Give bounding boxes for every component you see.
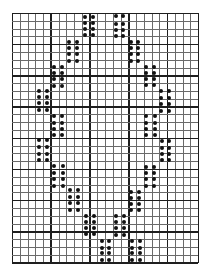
stitch-dot [144, 77, 148, 81]
stitch-dot [45, 158, 49, 162]
grid-line [12, 29, 198, 30]
grid-line [12, 36, 198, 37]
stitch-dot [152, 71, 156, 75]
stitch-dot [45, 152, 49, 156]
stitch-dot [152, 165, 156, 169]
stitch-dot [60, 114, 64, 118]
major-grid-line [12, 44, 198, 46]
stitch-dot [167, 158, 171, 162]
stitch-dot [60, 71, 64, 75]
stitch-dot [130, 246, 134, 250]
major-grid-line [12, 13, 198, 15]
stitch-dot [83, 15, 87, 19]
grid-line [12, 247, 198, 248]
stitch-dot [67, 46, 71, 50]
stitch-dot [37, 158, 41, 162]
major-grid-line [12, 200, 198, 202]
stitch-dot [76, 188, 80, 192]
grid-line [12, 216, 198, 217]
stitch-dot [129, 202, 133, 206]
stitch-dot [84, 214, 88, 218]
stitch-dot [152, 65, 156, 69]
stitch-dot [52, 133, 56, 137]
stitch-dot [52, 127, 56, 131]
stitch-dot [52, 121, 56, 125]
stitch-dot [122, 214, 126, 218]
stitch-dot [60, 77, 64, 81]
stitch-dot [129, 59, 133, 63]
stitch-dot [144, 133, 148, 137]
stitch-dot [137, 190, 141, 194]
stitch-dot [68, 201, 72, 205]
stitch-dot [152, 83, 156, 87]
stitch-dot [52, 71, 56, 75]
grid-line [12, 83, 198, 84]
stitch-dot [83, 27, 87, 31]
stitch-dot [137, 202, 141, 206]
stitch-dot [45, 138, 49, 142]
stitch-dot [152, 171, 156, 175]
grid-line [12, 239, 198, 240]
stitch-dot [60, 121, 64, 125]
grid-line [12, 60, 198, 61]
stitch-dot [107, 251, 111, 255]
stitch-dot [92, 214, 96, 218]
stitch-dot [107, 258, 111, 262]
stitch-dot [167, 96, 171, 100]
stitch-dot [152, 184, 156, 188]
major-grid-line [12, 169, 198, 171]
stitch-dot [75, 46, 79, 50]
stitch-dot [37, 101, 41, 105]
stitch-dot [68, 188, 72, 192]
stitch-dot [159, 102, 163, 106]
stitch-dot [37, 145, 41, 149]
stitch-dot [107, 246, 111, 250]
stitch-dot [138, 246, 142, 250]
stitch-dot [100, 258, 104, 262]
grid-line [12, 208, 198, 209]
stitch-dot [121, 28, 125, 32]
stitch-dot [52, 114, 56, 118]
stitch-dot [114, 14, 118, 18]
stitch-dot [45, 108, 49, 112]
stitch-dot [83, 21, 87, 25]
grid-line [12, 192, 198, 193]
stitch-dot [76, 195, 80, 199]
stitch-dot [114, 214, 118, 218]
stitch-dot [152, 77, 156, 81]
stitch-dot [153, 133, 157, 137]
stitch-dot [92, 232, 96, 236]
stitch-dot [122, 233, 126, 237]
stitch-dot [100, 239, 104, 243]
grid-line [12, 114, 198, 115]
stitch-dot [114, 22, 118, 26]
stitch-dot [52, 177, 56, 181]
stitch-dot [138, 239, 142, 243]
stitch-dot [167, 146, 171, 150]
stitch-dot [84, 232, 88, 236]
stitch-dot [137, 196, 141, 200]
stitch-dot [67, 59, 71, 63]
stitch-dot [167, 89, 171, 93]
stitch-chart [0, 0, 208, 279]
stitch-dot [138, 258, 142, 262]
stitch-dot [60, 127, 64, 131]
stitch-dot [144, 65, 148, 69]
stitch-dot [130, 239, 134, 243]
stitch-dot [137, 208, 141, 212]
stitch-dot [160, 158, 164, 162]
stitch-dot [122, 220, 126, 224]
grid-line [12, 177, 198, 178]
grid-line [12, 185, 198, 186]
stitch-dot [37, 138, 41, 142]
stitch-dot [144, 83, 148, 87]
stitch-dot [136, 40, 140, 44]
stitch-dot [100, 246, 104, 250]
stitch-dot [91, 21, 95, 25]
stitch-dot [52, 171, 56, 175]
stitch-dot [83, 33, 87, 37]
stitch-dot [144, 121, 148, 125]
stitch-dot [61, 171, 65, 175]
stitch-dot [114, 233, 118, 237]
grid-line [12, 52, 198, 53]
